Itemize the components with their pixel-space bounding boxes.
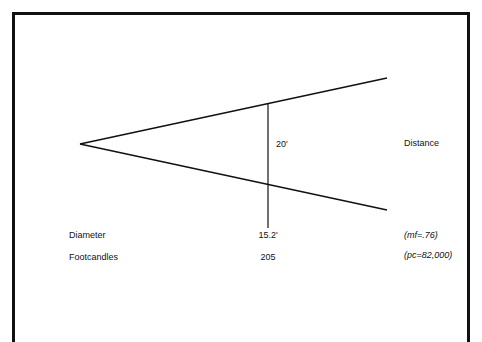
distance-value: 20' xyxy=(276,139,288,150)
footcandles-note: (pc=82,000) xyxy=(404,250,452,261)
beam-lower-edge xyxy=(80,144,387,210)
diameter-value: 15.2' xyxy=(258,230,277,241)
footcandles-value: 205 xyxy=(260,252,275,263)
beam-upper-edge xyxy=(80,78,387,144)
distance-label: Distance xyxy=(404,138,439,149)
diameter-note: (mf=.76) xyxy=(404,230,438,241)
footcandles-label: Footcandles xyxy=(69,252,118,263)
diameter-label: Diameter xyxy=(69,230,106,241)
